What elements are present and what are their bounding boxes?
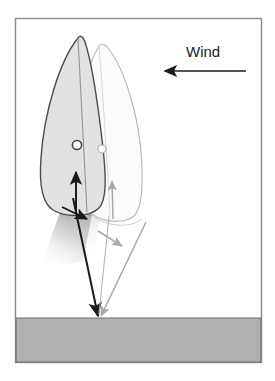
diagram-canvas: Wind <box>0 0 275 381</box>
porthole-previous-icon <box>98 145 106 153</box>
ground-band <box>16 318 261 362</box>
porthole-current-icon <box>72 140 81 149</box>
sail-motion-diagram: Wind <box>0 0 275 381</box>
lift-vector-previous <box>112 181 113 219</box>
wind-label: Wind <box>186 43 220 60</box>
